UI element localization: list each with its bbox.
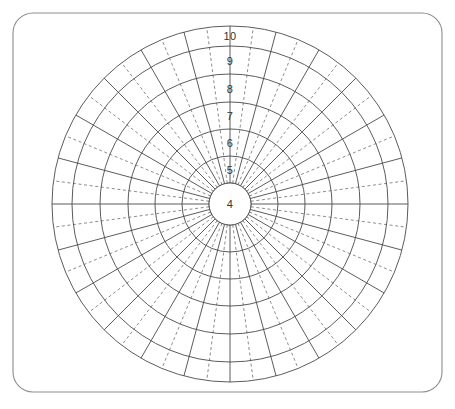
solid-spoke <box>58 209 210 250</box>
dashed-spoke <box>54 207 210 227</box>
solid-spoke <box>235 32 276 184</box>
polar-grid-layer <box>0 0 455 409</box>
dashed-spoke <box>207 28 227 184</box>
dashed-spoke <box>54 181 210 201</box>
solid-spoke <box>250 209 402 250</box>
center-disc <box>209 183 251 225</box>
dashed-spoke <box>233 28 253 184</box>
diagram-stage: 45678910 <box>0 0 455 409</box>
solid-spoke <box>184 32 225 184</box>
solid-spoke <box>250 158 402 199</box>
solid-spoke <box>58 158 210 199</box>
solid-spoke <box>184 224 225 376</box>
dashed-spoke <box>233 225 253 381</box>
dashed-spoke <box>251 207 407 227</box>
solid-spoke <box>235 224 276 376</box>
dashed-spoke <box>251 181 407 201</box>
dashed-spoke <box>207 225 227 381</box>
center-disc-group <box>209 183 251 225</box>
